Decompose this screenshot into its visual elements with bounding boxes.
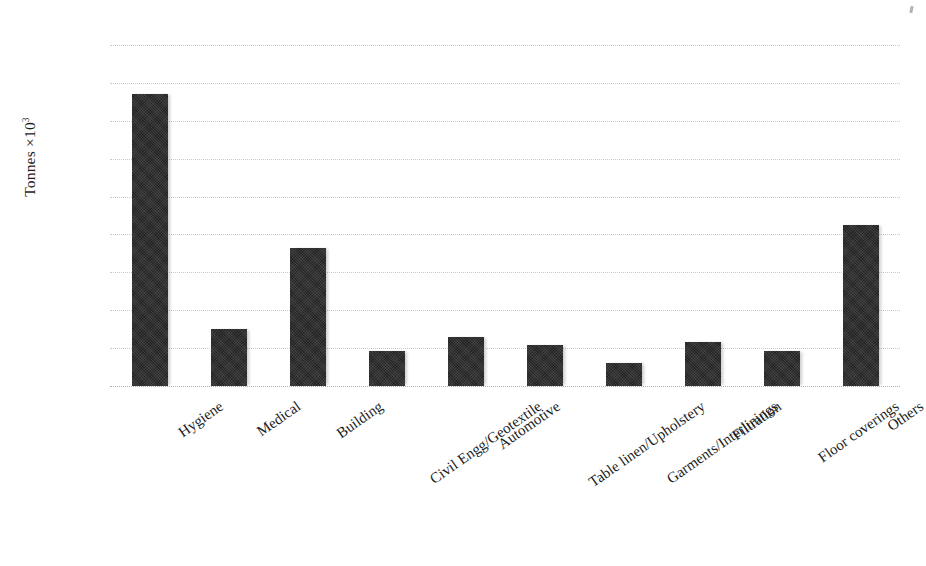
bar-slot [606,45,642,386]
x-axis-tick-label: Civil Engg/Geotextile [426,398,544,488]
x-axis-tick-label: Table linen/Upholstery [585,398,708,491]
y-axis-title-text: Tonnes ×10 [21,122,38,197]
x-axis-tick-label: Medical [253,398,303,440]
gridline [110,386,900,387]
x-axis-tick-label: Building [333,398,386,442]
bar [843,225,879,386]
bar [448,337,484,386]
bar [764,351,800,386]
bar [290,248,326,386]
bar [606,363,642,386]
bar [211,329,247,386]
bar [527,345,563,386]
bar-slot [843,45,879,386]
bar-slot [764,45,800,386]
bar-slot [527,45,563,386]
bar-slot [132,45,168,386]
bar-slot [290,45,326,386]
bar [369,351,405,386]
bar-slot [211,45,247,386]
bar [132,94,168,386]
plot-area: 180016001400120010008006004002000 [110,45,900,386]
y-axis-title: Tonnes ×103 [21,67,39,247]
bar [685,342,721,386]
bar-series [110,45,900,386]
scan-artifact [909,6,913,13]
bar-slot [448,45,484,386]
x-axis-tick-label: Hygiene [175,398,226,441]
y-axis-title-exponent: 3 [21,117,31,122]
bar-slot [685,45,721,386]
x-axis-tick-label: Floor coverings [815,398,902,466]
bar-slot [369,45,405,386]
